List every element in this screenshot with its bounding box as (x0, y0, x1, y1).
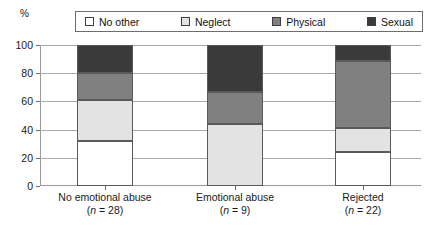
bar-segment-no-other (335, 152, 391, 186)
bar-segment-neglect (77, 100, 133, 141)
bar (77, 45, 133, 186)
x-axis-tick-mark (363, 186, 364, 190)
legend-item-label: Physical (286, 16, 325, 28)
y-axis-tick-label: 40 (21, 124, 33, 135)
legend-item: Neglect (181, 16, 231, 28)
plot-area: 020406080100 (40, 45, 421, 186)
category-sample-size: (n = 22) (288, 204, 437, 217)
y-axis-unit-label: % (20, 8, 29, 19)
bar (335, 45, 391, 186)
category-name: No emotional abuse (30, 191, 180, 204)
y-axis-tick-label: 100 (15, 40, 33, 51)
legend-item-label: Neglect (195, 16, 231, 28)
y-axis-tick-label: 20 (21, 152, 33, 163)
y-axis-tick-mark (36, 73, 40, 74)
y-axis-tick-mark (36, 45, 40, 46)
x-axis-category-label: Rejected(n = 22) (288, 191, 437, 217)
stacked-bar-chart: % No otherNeglectPhysicalSexual 02040608… (0, 0, 437, 230)
legend-swatch-no-other (85, 17, 94, 26)
legend-swatch-neglect (181, 17, 190, 26)
bar-segment-physical (335, 61, 391, 129)
x-axis-tick-mark (235, 186, 236, 190)
legend-item-label: No other (99, 16, 139, 28)
x-axis-tick-mark (105, 186, 106, 190)
legend-swatch-physical (272, 17, 281, 26)
bar-segment-physical (207, 92, 263, 124)
bar-segment-sexual (207, 45, 263, 92)
legend-item: No other (85, 16, 139, 28)
bar-segment-no-other (77, 141, 133, 186)
legend-item-label: Sexual (381, 16, 413, 28)
y-axis-tick-mark (36, 101, 40, 102)
bar-segment-sexual (335, 45, 391, 61)
y-axis-tick-label: 0 (27, 181, 33, 192)
y-axis-tick-label: 80 (21, 68, 33, 79)
y-axis-tick-mark (36, 158, 40, 159)
bar-segment-neglect (207, 124, 263, 186)
category-sample-size: (n = 28) (30, 204, 180, 217)
y-axis-tick-mark (36, 186, 40, 187)
y-axis-tick-label: 60 (21, 96, 33, 107)
x-axis-category-label: No emotional abuse(n = 28) (30, 191, 180, 217)
legend-item: Physical (272, 16, 325, 28)
bar-segment-neglect (335, 128, 391, 152)
bar (207, 45, 263, 186)
legend-item: Sexual (367, 16, 413, 28)
legend-swatch-sexual (367, 17, 376, 26)
bar-segment-sexual (77, 45, 133, 73)
category-name: Rejected (288, 191, 437, 204)
y-axis-tick-mark (36, 130, 40, 131)
chart-legend: No otherNeglectPhysicalSexual (75, 11, 423, 32)
bar-segment-physical (77, 73, 133, 100)
